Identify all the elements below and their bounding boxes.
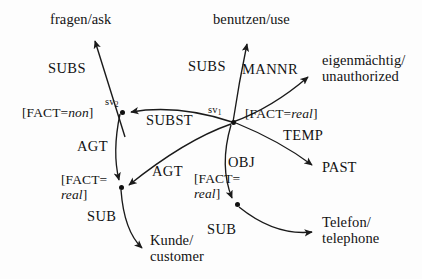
edge-label-sub-right: SUB bbox=[207, 222, 236, 238]
feature-value: non bbox=[68, 105, 89, 120]
feature-prefix: [FACT= bbox=[61, 172, 107, 187]
node-dot-object bbox=[235, 202, 240, 207]
edge-label-temp: TEMP bbox=[283, 128, 323, 144]
feature-line-2: real] bbox=[194, 187, 240, 202]
node-variable-sv2-base: sv bbox=[105, 96, 115, 107]
edge-label-agt-left: AGT bbox=[77, 139, 108, 155]
concept-line-1: eigenmächtig/ bbox=[322, 52, 405, 68]
concept-node-telefon: Telefon/ telephone bbox=[322, 214, 379, 246]
concept-node-benutzen: benutzen/use bbox=[213, 12, 290, 28]
node-variable-sv1-base: sv bbox=[208, 104, 218, 115]
node-dot-sv2 bbox=[120, 110, 125, 115]
concept-line-1: Kunde/ bbox=[150, 232, 204, 248]
feature-suffix: ] bbox=[89, 105, 94, 120]
concept-node-fragen: fragen/ask bbox=[50, 12, 111, 28]
edge-label-sub-left: SUB bbox=[87, 209, 116, 225]
edge-label-subs-left: SUBS bbox=[48, 61, 86, 77]
feature-line-1: [FACT= bbox=[194, 172, 240, 187]
edge-agt-left bbox=[116, 114, 120, 180]
semantic-network-diagram: fragen/ask benutzen/use eigenmächtig/ un… bbox=[0, 0, 422, 279]
concept-line-1: Telefon/ bbox=[322, 214, 379, 230]
node-dot-sv1 bbox=[231, 120, 236, 125]
feature-line-2: real] bbox=[61, 188, 107, 203]
concept-node-past: PAST bbox=[322, 160, 357, 176]
feature-prefix: [FACT= bbox=[194, 171, 240, 186]
concept-line-2: unauthorized bbox=[322, 68, 405, 84]
feature-prefix: [FACT= bbox=[245, 106, 291, 121]
feature-suffix: ] bbox=[216, 186, 221, 201]
node-variable-sv2-subscript: 2 bbox=[115, 100, 119, 109]
edge-label-subs-right: SUBS bbox=[188, 59, 226, 75]
feature-value: real bbox=[194, 186, 216, 201]
concept-line-2: telephone bbox=[322, 230, 379, 246]
feature-suffix: ] bbox=[313, 106, 318, 121]
edge-label-obj: OBJ bbox=[228, 155, 255, 171]
feature-line-1: [FACT= bbox=[61, 173, 107, 188]
concept-node-kunde: Kunde/ customer bbox=[150, 232, 204, 264]
feature-fact-real-sv1: [FACT=real] bbox=[245, 107, 317, 122]
node-variable-sv1: sv1 bbox=[208, 104, 222, 115]
concept-node-eigenmaechtig: eigenmächtig/ unauthorized bbox=[322, 52, 405, 84]
edge-sub-left bbox=[121, 190, 142, 248]
feature-fact-real-agent: [FACT= real] bbox=[61, 173, 107, 202]
feature-fact-real-object: [FACT= real] bbox=[194, 172, 240, 201]
edge-sub-right bbox=[239, 207, 312, 232]
node-variable-sv2: sv2 bbox=[105, 96, 119, 107]
feature-fact-non-sv2: [FACT=non] bbox=[22, 106, 93, 121]
edge-subs-left bbox=[95, 41, 125, 137]
feature-suffix: ] bbox=[83, 187, 88, 202]
edge-label-subst: SUBST bbox=[146, 113, 193, 129]
concept-line-2: customer bbox=[150, 248, 204, 264]
feature-prefix: [FACT= bbox=[22, 105, 68, 120]
edge-label-agt-right: AGT bbox=[152, 164, 183, 180]
feature-value: real bbox=[61, 187, 83, 202]
edge-label-mannr: MANNR bbox=[242, 62, 298, 78]
feature-value: real bbox=[291, 106, 313, 121]
node-variable-sv1-subscript: 1 bbox=[218, 108, 222, 117]
node-dot-agent bbox=[119, 185, 124, 190]
